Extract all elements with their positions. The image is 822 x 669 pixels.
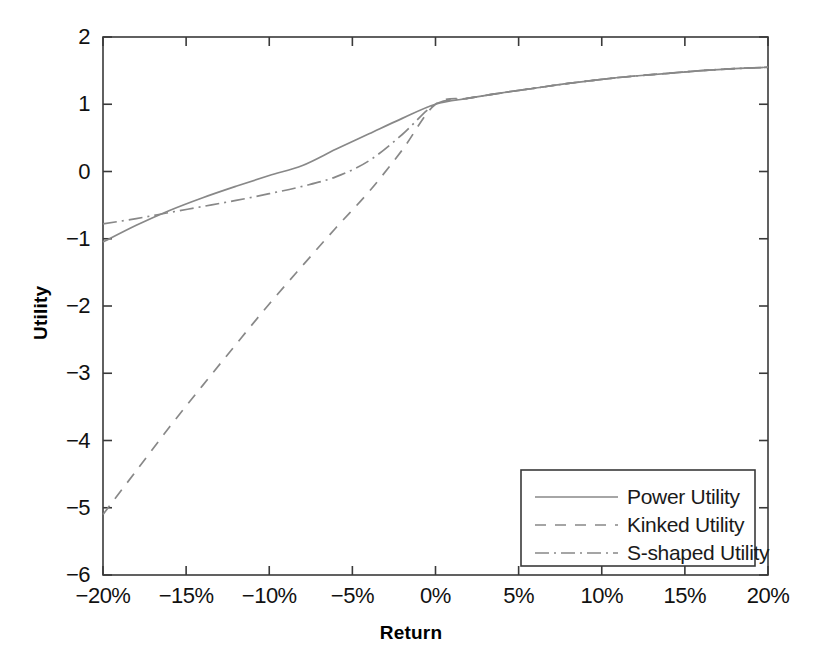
y-tick-label: −4 bbox=[44, 428, 90, 454]
y-tick-label: 1 bbox=[44, 91, 90, 117]
x-tick-label: 0% bbox=[391, 583, 481, 609]
y-tick-label: −3 bbox=[44, 360, 90, 386]
x-tick-label: −20% bbox=[58, 583, 148, 609]
y-tick-label: 0 bbox=[44, 159, 90, 185]
x-tick-label: −10% bbox=[224, 583, 314, 609]
utility-curves-plot: Power Utility Kinked Utility S-shaped Ut… bbox=[0, 0, 822, 669]
chart-figure: Power Utility Kinked Utility S-shaped Ut… bbox=[0, 0, 822, 669]
curve-kinked-utility bbox=[103, 67, 768, 514]
y-tick-label: −1 bbox=[44, 226, 90, 252]
legend-label-kinked-utility: Kinked Utility bbox=[627, 513, 745, 536]
legend-label-s-shaped-utility: S-shaped Utility bbox=[627, 541, 770, 564]
x-tick-label: −5% bbox=[307, 583, 397, 609]
legend: Power Utility Kinked Utility S-shaped Ut… bbox=[521, 470, 770, 566]
curve-power-utility bbox=[103, 67, 768, 242]
y-tick-label: 2 bbox=[44, 24, 90, 50]
data-curves bbox=[103, 67, 768, 514]
x-tick-label: 10% bbox=[557, 583, 647, 609]
y-tick-label: −5 bbox=[44, 495, 90, 521]
curve-s-shaped-utility bbox=[103, 67, 768, 224]
legend-label-power-utility: Power Utility bbox=[627, 485, 741, 508]
y-axis-title: Utility bbox=[30, 286, 52, 340]
x-axis-title: Return bbox=[0, 622, 822, 644]
x-tick-label: 5% bbox=[474, 583, 564, 609]
x-tick-label: −15% bbox=[141, 583, 231, 609]
x-tick-label: 15% bbox=[640, 583, 730, 609]
x-tick-label: 20% bbox=[723, 583, 813, 609]
